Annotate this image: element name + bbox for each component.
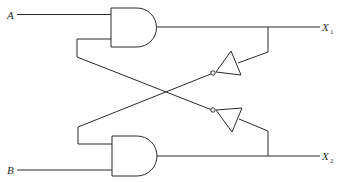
- output-x1-label: X: [321, 21, 330, 33]
- output-x2-subscript: 2: [330, 157, 334, 165]
- inverter-1-to-and-gate-2-wire: [78, 74, 211, 144]
- input-a-label: A: [6, 9, 14, 21]
- output-x2-label: X: [321, 150, 330, 162]
- x1-feedback-tap-wire: [238, 27, 268, 63]
- x2-feedback-tap-wire: [239, 119, 268, 156]
- inverter-2-icon: [216, 108, 242, 132]
- logic-circuit-diagram: A X 1 X 2 B: [0, 0, 337, 183]
- input-b-label: B: [7, 164, 14, 176]
- inverter-1-icon: [216, 51, 241, 75]
- circuit-svg: A X 1 X 2 B: [0, 0, 337, 183]
- inverter-2-bubble-icon: [211, 108, 215, 112]
- output-x1-subscript: 1: [330, 28, 334, 36]
- inverter-2-to-and-gate-1-wire: [77, 39, 211, 110]
- and-gate-2-icon: [112, 136, 157, 176]
- inverter-1-bubble-icon: [211, 71, 215, 75]
- and-gate-1-icon: [111, 8, 156, 47]
